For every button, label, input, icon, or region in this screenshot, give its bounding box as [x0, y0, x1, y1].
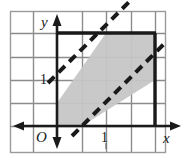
y-axis-label: y [41, 15, 48, 30]
y-tick-label-one: 1 [40, 73, 47, 87]
y-axis-arrow-down [53, 137, 62, 149]
origin-label: O [36, 130, 47, 145]
y-axis-arrow-up [53, 14, 62, 26]
x-axis-arrow-right [170, 122, 181, 131]
x-axis-label: x [163, 131, 170, 146]
coordinate-grid-figure: y x O 1 1 [0, 0, 184, 163]
x-axis-arrow-left [13, 122, 24, 131]
x-tick-label-one: 1 [101, 131, 108, 145]
plot-canvas [0, 0, 184, 163]
